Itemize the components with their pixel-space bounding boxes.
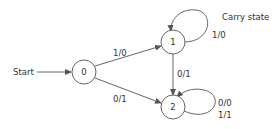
carry-state-annotation: Carry state <box>222 12 269 22</box>
edge-1-to-2-label: 0/1 <box>177 69 191 79</box>
edge-0-to-1-label: 1/0 <box>113 48 127 58</box>
state-diagram: Start 1/0 0/1 0/1 1/0 Carry state 0/0 1/… <box>0 0 280 129</box>
state-node-2: 2 <box>161 95 185 119</box>
state-node-0-label: 0 <box>81 67 86 77</box>
state-node-2-label: 2 <box>170 102 175 112</box>
start-label: Start <box>13 67 34 77</box>
self-loop-2-label-line1: 0/0 <box>218 98 232 108</box>
state-node-0: 0 <box>72 60 96 84</box>
self-loop-1-label: 1/0 <box>212 30 226 40</box>
edge-0-to-2-label: 0/1 <box>113 94 127 104</box>
edge-0-to-1 <box>95 46 161 66</box>
state-node-1: 1 <box>161 30 185 54</box>
edge-0-to-2 <box>95 78 161 103</box>
state-node-1-label: 1 <box>170 37 175 47</box>
self-loop-2-label-line2: 1/1 <box>218 110 232 120</box>
